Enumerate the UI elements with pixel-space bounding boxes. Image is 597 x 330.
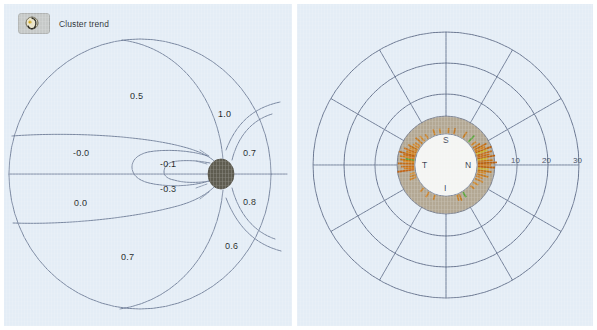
figure-root: Cluster trend 0.5 1.0 -0.0 0.7 -0.1 -0.3… (0, 0, 597, 330)
rnfl-defect-spike (440, 129, 441, 134)
polar-spoke (471, 207, 513, 280)
contour-value-label: 0.8 (243, 197, 256, 207)
polar-spoke (331, 190, 404, 232)
cluster-trend-legend-label: Cluster trend (59, 19, 109, 29)
rnfl-defect-spike (410, 173, 415, 174)
cluster-trend-contour-svg (4, 4, 292, 326)
cluster-trend-icon (18, 13, 50, 34)
contour-right-lower (232, 188, 275, 239)
cluster-trend-legend[interactable]: Cluster trend (18, 13, 109, 34)
polar-spoke (471, 50, 513, 123)
polar-spoke (488, 190, 561, 232)
optic-disc (208, 159, 234, 189)
polar-spoke (488, 99, 561, 141)
polar-label-nasal: N (465, 160, 471, 170)
contour-value-label: -0.3 (160, 184, 176, 194)
contour-value-label: -0.0 (73, 148, 89, 158)
tsnit-polar-panel: S T N I 10 20 30 (297, 4, 593, 326)
tsnit-polar-svg (297, 4, 593, 326)
disc-radial-ticks (196, 150, 209, 199)
rnfl-defect-spike (398, 163, 414, 164)
polar-label-superior: S (443, 135, 449, 145)
rnfl-defect-spike (478, 162, 497, 163)
polar-radial-tick-10: 10 (511, 156, 520, 165)
polar-radial-tick-20: 20 (542, 156, 551, 165)
contour-value-label: 0.7 (243, 148, 256, 158)
rnfl-defect-spike (478, 168, 489, 169)
contour-value-label: 0.5 (130, 91, 143, 101)
cluster-trend-panel: Cluster trend 0.5 1.0 -0.0 0.7 -0.1 -0.3… (4, 4, 292, 326)
polar-spoke (380, 207, 422, 280)
rnfl-defect-spike (404, 168, 414, 169)
contour-value-label: 0.6 (225, 241, 238, 251)
polar-label-temporal: T (422, 160, 427, 170)
contour-value-label: 0.0 (74, 198, 87, 208)
rnfl-defect-spike (478, 167, 495, 168)
contour-value-label: -0.1 (160, 159, 176, 169)
contour-value-label: 1.0 (218, 109, 231, 119)
contour-lower-flat (13, 183, 218, 223)
contour-value-label: 0.7 (121, 252, 134, 262)
polar-label-inferior: I (444, 183, 446, 193)
contour-right-outer-upper (226, 102, 280, 150)
polar-radial-tick-30: 30 (573, 156, 582, 165)
polar-spoke (331, 99, 404, 141)
polar-spoke (380, 50, 422, 123)
